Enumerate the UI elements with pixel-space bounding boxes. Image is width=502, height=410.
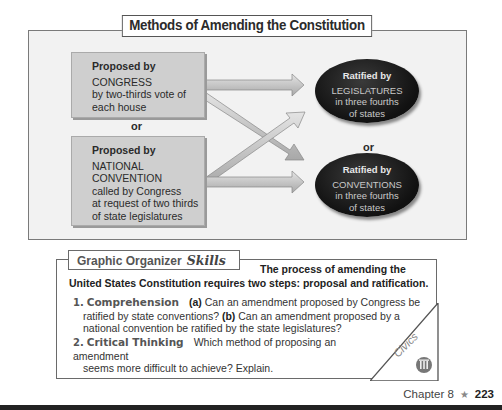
- question-number: 1.: [73, 297, 84, 308]
- skills-intro-line2: United States Constitution requires two …: [69, 277, 428, 290]
- page-footer: Chapter 8★223: [403, 388, 494, 400]
- ratification-line: CONVENTIONS: [315, 179, 419, 191]
- question-number: 2.: [73, 337, 84, 348]
- part-a-marker: (a): [189, 296, 202, 308]
- chapter-label: Chapter 8: [403, 388, 454, 400]
- proposal-head: Proposed by: [92, 60, 204, 73]
- ratification-head: Ratified by: [315, 70, 419, 82]
- ratification-or: or: [363, 141, 374, 153]
- proposal-line: NATIONAL: [92, 160, 204, 173]
- bottom-bar: [0, 405, 502, 410]
- ratification-legislatures: Ratified by LEGISLATURES in three fourth…: [315, 59, 419, 123]
- skills-tab: Graphic OrganizerSkills: [68, 250, 240, 270]
- ratification-conventions: Ratified by CONVENTIONS in three fourths…: [315, 153, 419, 217]
- question-label: Comprehension: [87, 296, 179, 308]
- question-label: Critical Thinking: [87, 336, 184, 348]
- proposal-line: called by Congress: [92, 185, 204, 198]
- proposal-line: at request of two thirds: [92, 197, 204, 210]
- ratification-line: LEGISLATURES: [315, 85, 419, 97]
- skills-intro-line1: The process of amending the: [260, 263, 406, 276]
- proposal-box-convention: Proposed by NATIONAL CONVENTION called b…: [71, 136, 205, 226]
- proposal-line: of state legislatures: [92, 210, 204, 223]
- question-critical-thinking: 2. Critical ThinkingWhich method of prop…: [73, 336, 393, 375]
- ratification-head: Ratified by: [315, 164, 419, 176]
- ratification-line: of states: [315, 202, 419, 214]
- capitol-columns-icon: [416, 357, 432, 373]
- part-b-marker: (b): [222, 310, 235, 322]
- proposal-line: each house: [92, 101, 204, 114]
- star-icon: ★: [460, 389, 469, 400]
- proposal-line: CONGRESS: [92, 76, 204, 89]
- civics-corner: Civics: [370, 303, 440, 381]
- proposal-line: CONVENTION: [92, 172, 204, 185]
- proposal-box-congress: Proposed by CONGRESS by two-thirds vote …: [71, 52, 205, 118]
- question-text: seems more difficult to achieve? Explain…: [73, 362, 393, 375]
- proposal-line: by two-thirds vote of: [92, 88, 204, 101]
- question-text: ratified by state conventions?: [83, 310, 222, 322]
- ratification-line: in three fourths: [315, 96, 419, 108]
- skills-tab-script: Skills: [187, 253, 226, 268]
- ratification-line: in three fourths: [315, 190, 419, 202]
- proposal-head: Proposed by: [92, 144, 204, 157]
- page-number: 223: [475, 388, 494, 400]
- skills-tab-label: Graphic Organizer: [77, 254, 182, 268]
- diagram-title: Methods of Amending the Constitution: [122, 15, 372, 37]
- proposal-or: or: [131, 120, 142, 132]
- ratification-line: of states: [315, 108, 419, 120]
